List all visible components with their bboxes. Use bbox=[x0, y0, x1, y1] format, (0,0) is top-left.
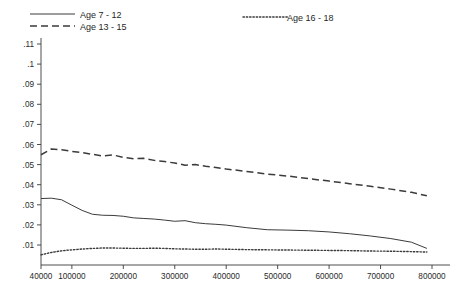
y-tick-label: .11 bbox=[23, 40, 34, 49]
x-axis-ticks: 4000010000020000030000040000050000060000… bbox=[30, 265, 446, 281]
y-tick-label: .05 bbox=[23, 161, 35, 170]
series-line-age-13-15 bbox=[41, 149, 427, 196]
y-tick-label: .01 bbox=[23, 241, 35, 250]
chart-legend: Age 7 - 12Age 13 - 15Age 16 - 18 bbox=[30, 10, 334, 32]
series-line-age-7-12 bbox=[41, 198, 427, 248]
y-tick-label: .02 bbox=[23, 221, 35, 230]
x-tick-label: 100000 bbox=[58, 272, 86, 281]
y-tick-label: .07 bbox=[23, 120, 35, 129]
y-tick-label: .09 bbox=[23, 80, 35, 89]
series-line-age-16-18 bbox=[41, 248, 427, 255]
chart-container: Age 7 - 12Age 13 - 15Age 16 - 18 .01.02.… bbox=[0, 0, 460, 292]
legend-label-age-7-12: Age 7 - 12 bbox=[80, 10, 122, 20]
chart-axes bbox=[41, 38, 450, 265]
y-tick-label: .06 bbox=[23, 141, 35, 150]
x-tick-label: 40000 bbox=[30, 272, 53, 281]
chart-series bbox=[41, 149, 427, 255]
x-tick-label: 800000 bbox=[418, 272, 446, 281]
line-chart: Age 7 - 12Age 13 - 15Age 16 - 18 .01.02.… bbox=[0, 0, 460, 292]
x-tick-label: 400000 bbox=[213, 272, 241, 281]
x-tick-label: 700000 bbox=[367, 272, 395, 281]
x-tick-label: 200000 bbox=[110, 272, 138, 281]
y-tick-label: .08 bbox=[23, 100, 35, 109]
legend-label-age-13-15: Age 13 - 15 bbox=[80, 22, 127, 32]
y-tick-label: .04 bbox=[23, 181, 35, 190]
x-tick-label: 500000 bbox=[264, 272, 292, 281]
legend-label-age-16-18: Age 16 - 18 bbox=[287, 13, 334, 23]
y-axis-ticks: .01.02.03.04.05.06.07.08.09.1.11 bbox=[23, 40, 41, 250]
y-tick-label: .03 bbox=[23, 201, 35, 210]
x-tick-label: 300000 bbox=[161, 272, 189, 281]
x-tick-label: 600000 bbox=[315, 272, 343, 281]
y-tick-label: .1 bbox=[27, 60, 34, 69]
